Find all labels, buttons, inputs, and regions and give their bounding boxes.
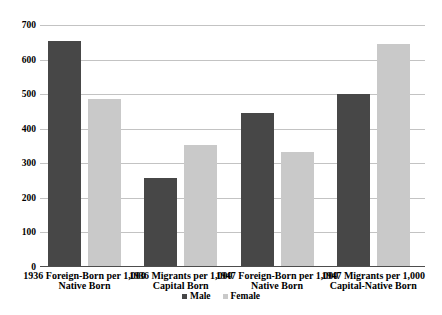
bar-male-group2 [144, 178, 177, 267]
category-label-4: 1947 Migrants per 1,000Capital-Native Bo… [321, 271, 425, 291]
plot-area [40, 25, 425, 267]
y-tick-label-300: 300 [6, 158, 36, 168]
y-tick-label-100: 100 [6, 227, 36, 237]
category-label-3: 1947 Foreign-Born per 1,000Native Born [216, 271, 338, 291]
bar-chart: MaleFemale 01002003004005006007001936 Fo… [0, 0, 442, 315]
y-tick-label-400: 400 [6, 124, 36, 134]
y-tick-label-200: 200 [6, 193, 36, 203]
legend-swatch-icon [182, 294, 187, 299]
bar-male-group3 [241, 113, 274, 267]
bar-male-group1 [48, 41, 81, 267]
category-label-line: Capital-Native Born [321, 281, 425, 291]
bar-female-group4 [377, 44, 410, 267]
bar-female-group3 [281, 152, 314, 267]
category-label-1: 1936 Foreign-Born per 1,000Native Born [23, 271, 145, 291]
x-axis-baseline [40, 266, 425, 267]
legend-item-female: Female [223, 291, 261, 301]
y-tick-label-500: 500 [6, 89, 36, 99]
gridline-700 [40, 25, 425, 26]
legend-swatch-icon [223, 294, 228, 299]
y-tick-label-600: 600 [6, 55, 36, 65]
gridline-600 [40, 60, 425, 61]
bar-female-group1 [88, 99, 121, 267]
legend: MaleFemale [0, 291, 442, 301]
legend-label: Female [231, 291, 261, 301]
category-label-line: Native Born [23, 281, 145, 291]
bar-male-group4 [337, 94, 370, 267]
y-tick-label-700: 700 [6, 20, 36, 30]
legend-item-male: Male [182, 291, 211, 301]
category-label-line: Native Born [216, 281, 338, 291]
legend-label: Male [190, 291, 211, 301]
bar-female-group2 [184, 145, 217, 267]
